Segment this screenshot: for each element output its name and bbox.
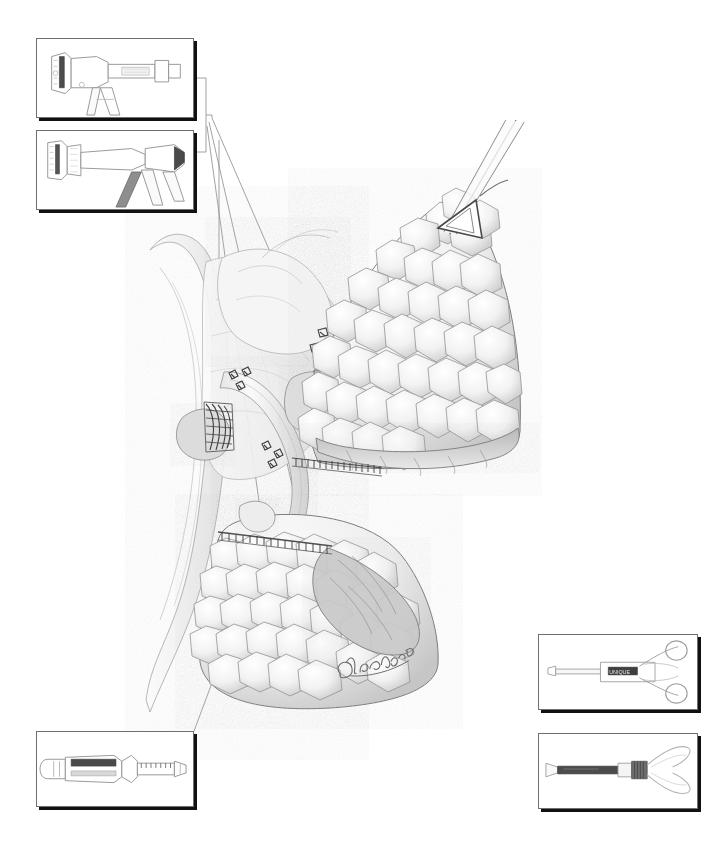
clip	[262, 441, 271, 450]
stapler-open-jaws-drawing	[37, 131, 193, 209]
clip	[268, 459, 277, 468]
leader-line-to-bronchus	[209, 122, 300, 520]
clip	[236, 381, 245, 390]
inset-endoscopic-linear-stapler[interactable]	[36, 38, 194, 118]
endoscopic-linear-stapler-drawing	[37, 39, 193, 117]
lower-lung-lobe	[190, 501, 438, 709]
surgical-clips-hilar	[310, 328, 328, 368]
scissor-handle-clip-applier-drawing: UNIQUE	[539, 635, 697, 709]
ring-handle-dissector-drawing	[539, 734, 697, 808]
artist-signature	[337, 648, 416, 679]
pulmonary-artery	[220, 372, 309, 522]
surgical-clips-arterial	[229, 367, 283, 468]
grasping-forceps	[438, 120, 524, 238]
bronchus-stump	[285, 370, 348, 434]
staple-line-lower	[218, 532, 332, 554]
instrument-shaft-marking: UNIQUE	[609, 669, 630, 675]
staple-line-upper	[292, 458, 382, 476]
inset-ring-handle-dissector[interactable]	[538, 733, 698, 809]
leader-line-to-vessel	[207, 126, 262, 523]
leader-line-layer	[0, 0, 718, 851]
inset-endoscopic-clip-applier[interactable]	[36, 731, 194, 807]
clip	[310, 343, 320, 352]
clip	[274, 449, 283, 458]
illustration-canvas: UNIQUE	[0, 0, 718, 851]
leader-bracket-upper	[194, 78, 206, 152]
clip	[229, 370, 238, 379]
chest-wall	[146, 234, 348, 712]
clip	[242, 367, 251, 376]
clip	[314, 359, 324, 368]
hilar-soft-tissue	[218, 230, 338, 354]
inset-scissor-handle-clip-applier[interactable]: UNIQUE	[538, 634, 698, 710]
upper-lung-lobe	[292, 188, 522, 476]
inset-stapler-open-jaws[interactable]	[36, 130, 194, 210]
leader-line-clip-applier	[194, 560, 258, 731]
leader-line-stapler	[206, 115, 212, 118]
vessel-stump	[176, 402, 234, 460]
anatomical-drawing	[0, 0, 718, 851]
endoscopic-clip-applier-drawing	[37, 732, 193, 806]
leader-line-to-fissure	[212, 118, 336, 404]
clip	[318, 328, 328, 337]
